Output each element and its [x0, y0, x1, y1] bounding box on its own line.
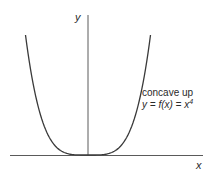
equation-annotation: y = f(x) = x4: [142, 99, 193, 110]
equation-text: y = f(x) = x: [142, 99, 189, 110]
concavity-annotation: concave up: [142, 87, 193, 98]
x-axis-label: x: [196, 160, 202, 171]
equation-exponent: 4: [189, 98, 193, 105]
y-axis-label: y: [75, 12, 81, 23]
